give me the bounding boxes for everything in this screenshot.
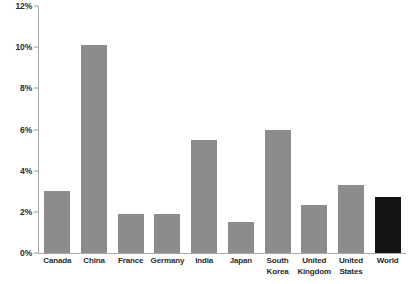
bar[interactable] [191, 140, 217, 253]
x-tick-label: India [186, 256, 223, 267]
y-tick-label: 6% [20, 125, 32, 135]
bar-slot [259, 6, 296, 253]
y-axis: 0%2%4%6%8%10%12% [0, 0, 37, 284]
bar[interactable] [118, 214, 144, 253]
bar-slot [223, 6, 260, 253]
bar[interactable] [338, 185, 364, 253]
bar[interactable] [301, 205, 327, 253]
bar-chart: 0%2%4%6%8%10%12% CanadaChinaFranceGerman… [0, 0, 409, 284]
x-tick-label: UnitedKingdom [296, 256, 333, 277]
x-tick-label: Canada [39, 256, 76, 267]
y-tick-label: 8% [20, 83, 32, 93]
x-axis-line [38, 253, 406, 254]
bar[interactable] [44, 191, 70, 253]
y-tick-label: 4% [20, 166, 32, 176]
x-tick-label: Germany [149, 256, 186, 267]
x-tick-label: UnitedStates [333, 256, 370, 277]
y-tick-label: 0% [20, 248, 32, 258]
bar[interactable] [375, 197, 401, 253]
plot-area [39, 6, 406, 253]
bar-slot [112, 6, 149, 253]
bar[interactable] [228, 222, 254, 253]
y-tick-label: 2% [20, 207, 32, 217]
y-tick-label: 10% [16, 42, 32, 52]
bar-slot [296, 6, 333, 253]
bar-slot [333, 6, 370, 253]
bar[interactable] [81, 45, 107, 253]
x-tick-label: World [369, 256, 406, 267]
bar-slot [149, 6, 186, 253]
x-tick-label: SouthKorea [259, 256, 296, 277]
bar[interactable] [265, 130, 291, 254]
bar-slot [39, 6, 76, 253]
x-tick-label: Japan [223, 256, 260, 267]
y-tick-label: 12% [16, 1, 32, 11]
x-tick-label: France [112, 256, 149, 267]
x-axis: CanadaChinaFranceGermanyIndiaJapanSouthK… [39, 256, 406, 284]
bar-slot [76, 6, 113, 253]
bar-slot [369, 6, 406, 253]
bar[interactable] [154, 214, 180, 253]
x-tick-label: China [76, 256, 113, 267]
bar-slot [186, 6, 223, 253]
